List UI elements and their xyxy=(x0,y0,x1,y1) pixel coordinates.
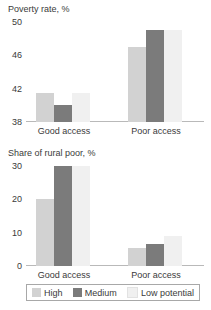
legend-label-high: High xyxy=(44,288,63,298)
legend-swatch-low-potential xyxy=(127,287,138,298)
bar-low-potential-poor-access-share[interactable] xyxy=(164,236,182,266)
bar-low-potential-good-access-share[interactable] xyxy=(72,166,90,266)
legend-swatch-high xyxy=(32,288,41,297)
category-label-poor-access-poverty: Poor access xyxy=(128,126,184,136)
chart-page: Poverty rate, % 38424650 Good access Poo… xyxy=(0,0,211,310)
bar-high-good-access-poverty[interactable] xyxy=(36,93,54,122)
bar-group-poor-access-share: Poor access xyxy=(128,166,184,266)
bar-medium-good-access-share[interactable] xyxy=(54,166,72,266)
share-of-rural-poor-chart: Share of rural poor, % 0102030 Good acce… xyxy=(0,148,211,288)
y-tick-label: 46 xyxy=(12,51,22,60)
bar-high-poor-access-share[interactable] xyxy=(128,248,146,266)
bar-low-potential-good-access-poverty[interactable] xyxy=(72,93,90,122)
y-tick-label: 50 xyxy=(12,18,22,27)
bar-medium-good-access-poverty[interactable] xyxy=(54,105,72,122)
plot-area-share-of-rural-poor: 0102030 Good access Poor access xyxy=(26,166,204,266)
legend-label-medium: Medium xyxy=(85,288,117,298)
legend-item-high[interactable]: High xyxy=(32,288,63,298)
legend-swatch-medium xyxy=(73,288,82,297)
legend-item-medium[interactable]: Medium xyxy=(73,288,117,298)
category-label-good-access-share: Good access xyxy=(36,270,92,280)
bar-low-potential-poor-access-poverty[interactable] xyxy=(164,30,182,122)
bar-high-good-access-share[interactable] xyxy=(36,199,54,266)
y-tick-label: 42 xyxy=(12,84,22,93)
bar-group-good-access-share: Good access xyxy=(36,166,92,266)
chart-title-share-of-rural-poor: Share of rural poor, % xyxy=(8,148,96,159)
legend-item-low-potential[interactable]: Low potential xyxy=(127,287,194,298)
plot-area-poverty-rate: 38424650 Good access Poor access xyxy=(26,22,204,122)
y-tick-label: 38 xyxy=(12,118,22,127)
category-label-poor-access-share: Poor access xyxy=(128,270,184,280)
y-tick-label: 20 xyxy=(12,195,22,204)
y-tick-label: 0 xyxy=(17,262,22,271)
bar-high-poor-access-poverty[interactable] xyxy=(128,47,146,122)
legend-label-low-potential: Low potential xyxy=(141,288,194,298)
chart-legend: High Medium Low potential xyxy=(26,284,200,301)
category-label-good-access-poverty: Good access xyxy=(36,126,92,136)
bar-medium-poor-access-poverty[interactable] xyxy=(146,30,164,122)
bar-medium-poor-access-share[interactable] xyxy=(146,244,164,266)
chart-title-poverty-rate: Poverty rate, % xyxy=(8,4,70,15)
bar-group-good-access-poverty: Good access xyxy=(36,22,92,122)
y-tick-label: 10 xyxy=(12,228,22,237)
y-tick-label: 30 xyxy=(12,162,22,171)
poverty-rate-chart: Poverty rate, % 38424650 Good access Poo… xyxy=(0,4,211,144)
bar-group-poor-access-poverty: Poor access xyxy=(128,22,184,122)
